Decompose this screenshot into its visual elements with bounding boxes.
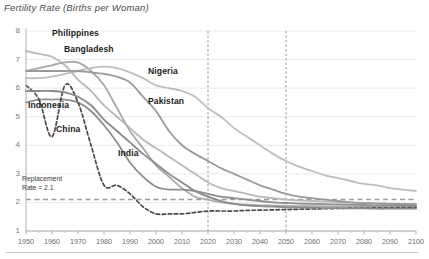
series-label-philippines: Philippines xyxy=(52,28,99,38)
y-tick-7: 7 xyxy=(6,55,20,64)
y-tick-8: 8 xyxy=(6,26,20,35)
series-label-india: India xyxy=(118,148,139,158)
series-label-nigeria: Nigeria xyxy=(148,66,178,76)
series-line-philippines xyxy=(26,51,416,204)
series-label-china: China xyxy=(56,124,80,134)
x-tick-2100: 2100 xyxy=(401,237,429,246)
series-label-bangladesh: Bangladesh xyxy=(64,44,114,54)
y-tick-5: 5 xyxy=(6,112,20,121)
series-line-bangladesh xyxy=(26,62,416,207)
series-line-indonesia xyxy=(26,99,416,205)
y-tick-4: 4 xyxy=(6,140,20,149)
y-tick-6: 6 xyxy=(6,83,20,92)
series-line-china xyxy=(26,84,416,215)
replacement-rate-annotation: Replacement Rate = 2.1 xyxy=(22,174,62,192)
y-tick-3: 3 xyxy=(6,169,20,178)
series-label-pakistan: Pakistan xyxy=(148,96,184,106)
series-line-india xyxy=(26,91,416,209)
series-line-pakistan xyxy=(26,71,416,205)
y-tick-2: 2 xyxy=(6,197,20,206)
replacement-rate-line1: Replacement xyxy=(22,174,62,183)
footer-rule xyxy=(6,252,418,253)
replacement-rate-line2: Rate = 2.1 xyxy=(22,183,62,192)
y-tick-1: 1 xyxy=(6,226,20,235)
series-label-indonesia: Indonesia xyxy=(28,100,69,110)
